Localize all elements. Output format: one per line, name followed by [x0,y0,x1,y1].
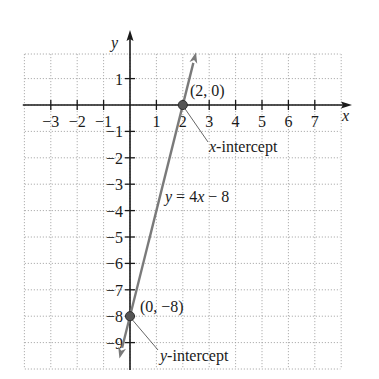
x-tick-label: 3 [205,113,213,130]
x-intercept-var: x [208,138,216,155]
y-tick-label: −8 [106,308,123,325]
x-tick-label: 7 [311,113,319,130]
y-intercept-word: -intercept [167,347,229,365]
y-tick-label: −7 [106,282,123,299]
x-tick-label: 5 [258,113,266,130]
y-tick-label: −5 [106,229,123,246]
x-axis-label: x [341,107,349,124]
y-tick-label: −6 [106,255,123,272]
y-tick-label: −4 [106,203,123,220]
y-tick-label: −9 [106,335,123,352]
intercept-point [178,100,187,109]
y-intercept-label: y-intercept [158,347,229,365]
equation-x: x [196,188,204,205]
x-tick-label: 4 [232,113,240,130]
x-tick-label: −3 [42,113,59,130]
x-tick-label: 6 [284,113,292,130]
intercept-point [125,312,134,321]
line-chart: −3−2−112345671−1−2−3−4−5−6−7−8−9 y x (2,… [0,0,379,379]
x-tick-label: −2 [69,113,86,130]
equation-eq: = 4 [172,188,197,205]
y-tick-label: 1 [115,71,123,88]
y-tick-label: −1 [106,123,123,140]
point-label-y-intercept: (0, −8) [140,298,184,316]
y-tick-label: −3 [106,176,123,193]
y-tick-label: −2 [106,150,123,167]
point-label-x-intercept: (2, 0) [190,82,225,100]
equation-label: y = 4x − 8 [163,188,229,206]
x-intercept-word: -intercept [216,138,278,156]
x-tick-label: 1 [152,113,160,130]
y-axis-label: y [109,34,119,52]
equation-tail: − 8 [204,188,229,205]
x-intercept-label: x-intercept [208,138,278,156]
y-intercept-callout [131,318,158,350]
